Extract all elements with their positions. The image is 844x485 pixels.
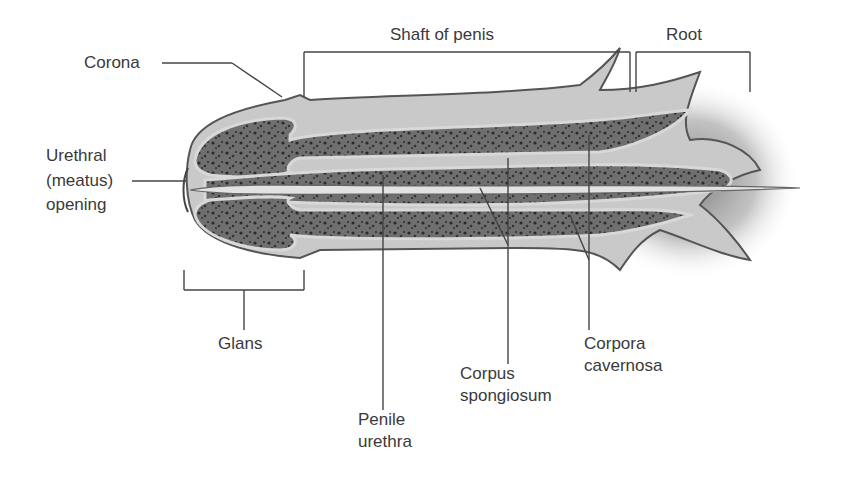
label-penile-urethra-line2: urethra [358,432,412,452]
label-glans: Glans [218,334,262,354]
anatomy-diagram: Corona Urethral (meatus) opening Shaft o… [0,0,844,485]
label-root: Root [666,25,702,45]
label-urethral-opening-line2: (meatus) [46,171,113,191]
label-corona: Corona [84,53,140,73]
label-penile-urethra-line1: Penile [358,410,405,430]
label-corpus-spongiosum-line1: Corpus [460,364,515,384]
label-urethral-opening-line3: opening [46,195,107,215]
label-corpora-cavernosa-line1: Corpora [584,334,645,354]
label-corpora-cavernosa-line2: cavernosa [584,356,662,376]
label-shaft-of-penis: Shaft of penis [390,25,494,45]
label-urethral-opening-line1: Urethral [46,146,106,166]
label-corpus-spongiosum-line2: spongiosum [460,386,552,406]
